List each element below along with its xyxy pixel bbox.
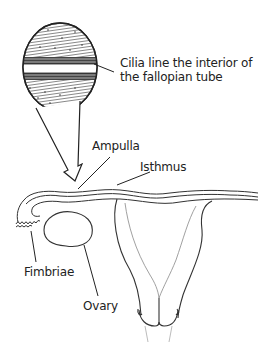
isthmus-label: Isthmus [140,160,186,174]
cilia-label: Cilia line the interior of the fallopian… [120,56,260,84]
magnification-arrow [36,101,82,181]
diagram-illustration [0,0,261,357]
ovary-label: Ovary [83,299,118,313]
uterus [115,199,212,342]
ovary-shape [44,212,92,247]
reproductive-diagram: Cilia line the interior of the fallopian… [0,0,261,357]
magnified-circle [20,20,100,115]
fimbriae-leader-line [31,231,36,262]
fimbriae-label: Fimbriae [24,265,74,279]
ampulla-label: Ampulla [92,139,140,153]
ovary-leader-line [84,245,98,296]
ampulla-leader-line [78,157,110,189]
